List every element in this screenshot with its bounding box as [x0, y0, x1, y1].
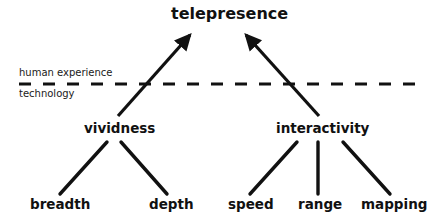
telepresence-diagram: telepresence human experience technology… — [0, 0, 439, 223]
node-range: range — [298, 198, 342, 212]
layer-label-technology: technology — [19, 89, 75, 99]
node-breadth: breadth — [30, 198, 90, 212]
edge-interactivity-speed — [250, 142, 297, 194]
node-telepresence: telepresence — [171, 6, 283, 22]
edge-vividness-depth — [121, 142, 167, 194]
edge-interactivity-mapping — [343, 142, 390, 194]
node-interactivity: interactivity — [276, 122, 369, 136]
arrow-vividness-to-telepresence — [118, 35, 190, 116]
node-mapping: mapping — [361, 198, 427, 212]
node-speed: speed — [228, 198, 274, 212]
node-depth: depth — [149, 198, 194, 212]
diagram-connectors — [0, 0, 439, 223]
node-vividness: vividness — [84, 122, 155, 136]
arrow-interactivity-to-telepresence — [246, 35, 319, 116]
edge-vividness-breadth — [60, 142, 107, 194]
layer-label-human-experience: human experience — [19, 68, 113, 78]
